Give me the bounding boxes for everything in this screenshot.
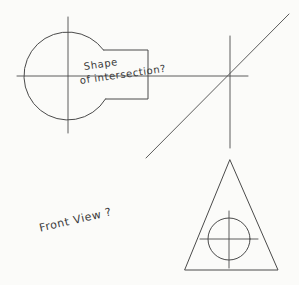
- front-view-group: [185, 160, 278, 270]
- sketch-sheet: Shape of intersection? Front View ?: [0, 0, 299, 285]
- miter-projection-diagonal-line: [146, 14, 289, 158]
- technical-drawing-canvas: [0, 0, 299, 285]
- top-view-group: [17, 17, 248, 133]
- projection-group: [146, 14, 289, 158]
- top-view-rectangular-tab: [104, 50, 149, 99]
- front-view-triangle: [185, 160, 278, 270]
